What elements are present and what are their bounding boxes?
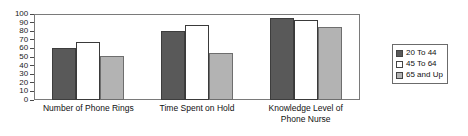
bar-group xyxy=(161,14,233,100)
light-gray-swatch xyxy=(396,72,403,79)
bar xyxy=(161,31,185,100)
bar xyxy=(100,56,124,100)
bar xyxy=(294,20,318,100)
x-axis-category-label: Number of Phone Rings xyxy=(28,103,148,114)
bar xyxy=(209,53,233,100)
legend-item-label: 65 and Up xyxy=(406,71,443,79)
chart-legend: 20 To 4445 To 6465 and Up xyxy=(392,44,448,84)
y-axis-tick-label: 80 xyxy=(19,27,30,35)
legend-item: 20 To 44 xyxy=(396,48,443,58)
y-axis-tick-label: 60 xyxy=(19,44,30,52)
y-axis-tick-label: 70 xyxy=(19,36,30,44)
bar-group xyxy=(270,14,342,100)
y-axis: 0102030405060708090100 xyxy=(0,14,34,100)
y-axis-tick-label: 90 xyxy=(19,19,30,27)
white-swatch xyxy=(396,61,403,68)
y-axis-tick-label: 50 xyxy=(19,53,30,61)
legend-item-label: 20 To 44 xyxy=(406,49,437,57)
bar xyxy=(270,18,294,100)
x-axis-category-label: Knowledge Level of Phone Nurse xyxy=(246,103,366,125)
x-axis-category-label: Time Spent on Hold xyxy=(137,103,257,114)
bar xyxy=(185,25,209,100)
legend-item: 45 To 64 xyxy=(396,59,443,69)
y-axis-tick-label: 10 xyxy=(19,87,30,95)
bar-chart: 0102030405060708090100 Number of Phone R… xyxy=(0,0,468,136)
y-axis-tick-label: 20 xyxy=(19,79,30,87)
bar xyxy=(318,27,342,100)
y-axis-tick-label: 30 xyxy=(19,70,30,78)
dark-gray-swatch xyxy=(396,50,403,57)
legend-item-label: 45 To 64 xyxy=(406,60,437,68)
bar xyxy=(52,48,76,100)
bars-layer xyxy=(34,14,360,100)
x-axis-category-labels: Number of Phone RingsTime Spent on HoldK… xyxy=(34,103,360,133)
bar xyxy=(76,42,100,100)
y-axis-tick-label: 100 xyxy=(15,10,30,18)
legend-item: 65 and Up xyxy=(396,70,443,80)
bar-group xyxy=(52,14,124,100)
y-axis-tick-label: 40 xyxy=(19,62,30,70)
